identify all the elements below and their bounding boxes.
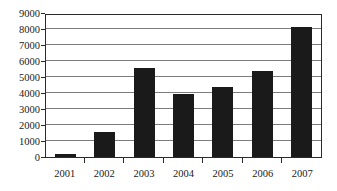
x-axis-label: 2007 <box>282 166 322 182</box>
x-axis-label: 2004 <box>164 166 204 182</box>
x-axis-label: 2002 <box>85 166 125 182</box>
x-axis-tick <box>282 158 322 163</box>
bar-slot <box>46 15 85 157</box>
x-axis-label: 2003 <box>124 166 164 182</box>
x-axis-tick <box>243 158 283 163</box>
y-axis-label: 3000 <box>0 105 40 116</box>
bar-slot <box>203 15 242 157</box>
x-axis-label: 2005 <box>203 166 243 182</box>
bar-slot <box>242 15 281 157</box>
bar-slot <box>282 15 321 157</box>
y-axis-label: 2000 <box>0 121 40 132</box>
bar-series <box>46 15 321 157</box>
y-axis-label: 6000 <box>0 57 40 68</box>
bar-chart: 0100020003000400050006000700080009000 20… <box>0 0 337 191</box>
x-axis-tick-labels: 2001200220032004200520062007 <box>45 166 322 182</box>
x-axis-tick <box>45 158 85 163</box>
y-axis-label: 1000 <box>0 137 40 148</box>
bar[interactable] <box>291 27 312 157</box>
plot-area <box>45 14 322 158</box>
y-axis-label: 8000 <box>0 25 40 36</box>
bar[interactable] <box>94 132 115 157</box>
bar[interactable] <box>173 94 194 157</box>
x-axis-label: 2001 <box>45 166 85 182</box>
bar-slot <box>164 15 203 157</box>
x-axis-tick <box>203 158 243 163</box>
x-axis-tick <box>164 158 204 163</box>
y-axis-label: 0 <box>0 153 40 164</box>
bar[interactable] <box>252 71 273 157</box>
bar[interactable] <box>134 68 155 157</box>
x-axis-tick <box>124 158 164 163</box>
y-axis-label: 5000 <box>0 73 40 84</box>
x-axis-tick-marks <box>45 158 322 163</box>
bar-slot <box>125 15 164 157</box>
bar[interactable] <box>212 87 233 157</box>
y-axis-label: 7000 <box>0 41 40 52</box>
x-axis-label: 2006 <box>243 166 283 182</box>
y-axis-label: 4000 <box>0 89 40 100</box>
y-axis-tick-labels: 0100020003000400050006000700080009000 <box>0 14 40 158</box>
bar-slot <box>85 15 124 157</box>
bar[interactable] <box>55 154 76 157</box>
y-axis-label: 9000 <box>0 9 40 20</box>
x-axis-tick <box>85 158 125 163</box>
